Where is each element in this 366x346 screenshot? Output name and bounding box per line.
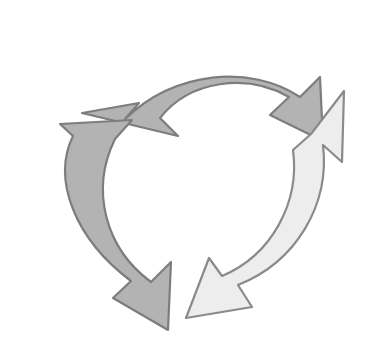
cycle-diagram-figure bbox=[0, 0, 366, 346]
cycle-diagram-canvas bbox=[0, 0, 366, 346]
